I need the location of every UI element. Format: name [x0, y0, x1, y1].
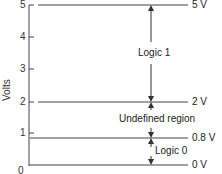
y-tick-4: 4	[20, 32, 26, 42]
level-label-0-8v: 0.8 V	[192, 133, 215, 143]
level-label-0v: 0 V	[192, 160, 207, 170]
level-label-2v: 2 V	[192, 97, 207, 107]
region-label-logic-0: Logic 0	[155, 146, 187, 156]
y-tick-5: 5	[20, 0, 26, 10]
y-tick-0: 0	[18, 166, 24, 174]
diagram-canvas	[0, 0, 222, 174]
region-label-undefined: Undefined region	[118, 114, 196, 124]
y-tick-3: 3	[20, 64, 26, 74]
level-label-5v: 5 V	[192, 0, 207, 10]
region-label-logic-1: Logic 1	[137, 48, 171, 58]
y-axis-label: Volts	[1, 79, 12, 101]
y-tick-2: 2	[20, 97, 26, 107]
y-tick-1: 1	[20, 128, 26, 138]
